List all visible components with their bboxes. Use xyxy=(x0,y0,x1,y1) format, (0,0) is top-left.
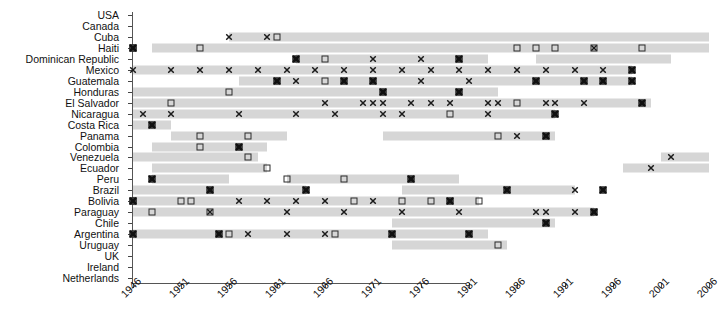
period-band xyxy=(152,164,267,173)
marker-x xyxy=(370,99,377,106)
marker-square xyxy=(398,198,405,205)
period-band xyxy=(229,33,709,42)
marker-both xyxy=(552,110,559,117)
marker-both xyxy=(446,198,453,205)
marker-both-glyph xyxy=(504,187,511,194)
marker-both xyxy=(581,77,588,84)
marker-x xyxy=(456,67,463,74)
marker-x xyxy=(226,67,233,74)
marker-square xyxy=(590,45,597,52)
marker-both-glyph xyxy=(638,99,645,106)
marker-both xyxy=(590,209,597,216)
y-axis-label-canada: Canada xyxy=(82,21,119,32)
marker-x xyxy=(264,34,271,41)
marker-both-glyph xyxy=(590,209,597,216)
marker-square xyxy=(494,241,501,248)
marker-both xyxy=(130,230,137,237)
period-band xyxy=(392,218,555,227)
marker-both xyxy=(533,77,540,84)
y-axis-label-el-salvador: El Salvador xyxy=(65,98,119,109)
marker-x xyxy=(254,67,261,74)
period-band xyxy=(133,98,651,107)
marker-x xyxy=(379,99,386,106)
period-band xyxy=(133,229,488,238)
marker-both-glyph xyxy=(466,230,473,237)
marker-x xyxy=(235,110,242,117)
y-axis-label-ireland: Ireland xyxy=(87,261,119,272)
marker-x xyxy=(542,99,549,106)
marker-square xyxy=(514,45,521,52)
marker-both xyxy=(629,67,636,74)
marker-x xyxy=(331,110,338,117)
marker-both xyxy=(130,45,137,52)
marker-square xyxy=(475,198,482,205)
marker-both-glyph xyxy=(130,45,137,52)
marker-both xyxy=(456,56,463,63)
marker-square xyxy=(552,45,559,52)
marker-square xyxy=(322,77,329,84)
y-axis-label-paraguay: Paraguay xyxy=(74,207,119,218)
marker-both-glyph xyxy=(149,176,156,183)
marker-x xyxy=(571,67,578,74)
marker-both xyxy=(638,99,645,106)
marker-both xyxy=(235,143,242,150)
marker-both xyxy=(206,187,213,194)
marker-both-glyph xyxy=(341,77,348,84)
marker-both xyxy=(600,187,607,194)
marker-x xyxy=(168,110,175,117)
plot-area xyxy=(133,10,465,283)
marker-square xyxy=(446,110,453,117)
marker-x xyxy=(485,110,492,117)
marker-both xyxy=(379,88,386,95)
x-axis-label-1991: 1991 xyxy=(551,275,575,299)
marker-square xyxy=(168,99,175,106)
marker-both xyxy=(504,187,511,194)
y-axis-label-netherlands: Netherlands xyxy=(62,272,119,283)
marker-x xyxy=(322,198,329,205)
period-band xyxy=(152,44,709,53)
y-axis-label-dominican-republic: Dominican Republic xyxy=(26,54,119,65)
marker-square xyxy=(197,45,204,52)
marker-square xyxy=(226,230,233,237)
marker-x xyxy=(427,99,434,106)
marker-both-glyph xyxy=(456,56,463,63)
marker-square xyxy=(274,34,281,41)
marker-square xyxy=(533,45,540,52)
period-band xyxy=(383,131,556,140)
y-axis-labels: USACanadaCubaHaitiDominican RepublicMexi… xyxy=(0,0,127,283)
marker-x xyxy=(370,198,377,205)
marker-x xyxy=(648,165,655,172)
marker-both xyxy=(370,77,377,84)
marker-square xyxy=(350,198,357,205)
period-band xyxy=(133,186,306,195)
y-axis-label-panama: Panama xyxy=(80,130,119,141)
marker-x xyxy=(130,67,137,74)
marker-both xyxy=(149,176,156,183)
marker-x xyxy=(552,99,559,106)
marker-both-glyph xyxy=(552,110,559,117)
period-band xyxy=(133,109,555,118)
marker-both-glyph xyxy=(600,77,607,84)
marker-square xyxy=(197,143,204,150)
marker-x xyxy=(494,99,501,106)
marker-x xyxy=(533,209,540,216)
marker-both-glyph xyxy=(542,132,549,139)
marker-x xyxy=(341,209,348,216)
marker-both-glyph xyxy=(293,56,300,63)
marker-x xyxy=(514,132,521,139)
marker-x xyxy=(485,67,492,74)
marker-both xyxy=(600,77,607,84)
marker-x xyxy=(283,230,290,237)
marker-both-glyph xyxy=(274,77,281,84)
marker-square xyxy=(187,198,194,205)
marker-x xyxy=(360,99,367,106)
marker-x xyxy=(226,34,233,41)
marker-both xyxy=(466,230,473,237)
period-band xyxy=(392,240,507,249)
marker-x xyxy=(466,77,473,84)
marker-square xyxy=(494,132,501,139)
marker-both-glyph xyxy=(206,187,213,194)
marker-x xyxy=(398,209,405,216)
marker-x xyxy=(293,77,300,84)
